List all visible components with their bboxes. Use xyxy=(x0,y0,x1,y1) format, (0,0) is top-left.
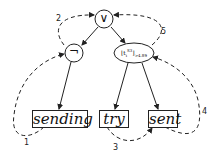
step-5-arrow xyxy=(114,15,161,45)
threshold-sub: i xyxy=(126,53,127,58)
step-2-arrow xyxy=(58,15,94,45)
edge-or-threshold xyxy=(111,27,125,43)
try-node: try xyxy=(99,110,129,128)
step-3-arrow xyxy=(107,127,152,141)
edge-threshold-sent xyxy=(142,63,158,109)
sending-node: sending xyxy=(32,110,88,128)
threshold-label: ⌊tiS3⌋>4.89 xyxy=(117,48,151,58)
step-5-label: 5 xyxy=(161,27,166,36)
sent-node: sent xyxy=(148,110,178,128)
threshold-cond: >4.89 xyxy=(135,53,147,58)
edge-not-sending xyxy=(59,62,71,109)
or-symbol: ∨ xyxy=(96,11,112,25)
edge-or-not xyxy=(82,27,98,45)
not-symbol: ¬ xyxy=(66,45,82,59)
step-4-label: 4 xyxy=(202,107,207,116)
step-3-label: 3 xyxy=(113,143,118,152)
edge-threshold-try xyxy=(115,63,128,109)
step-1-label: 1 xyxy=(24,138,29,147)
step-2-label: 2 xyxy=(56,14,61,23)
